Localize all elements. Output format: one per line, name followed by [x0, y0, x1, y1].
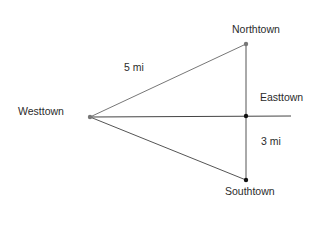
northtown-label: Northtown	[232, 24, 280, 35]
northtown-point	[244, 42, 248, 46]
southtown-label: Southtown	[225, 186, 275, 197]
distance-label-west-north: 5 mi	[124, 62, 144, 73]
easttown-point	[244, 114, 248, 118]
southtown-point	[244, 178, 248, 182]
segment-west-north	[90, 44, 246, 117]
easttown-label: Easttown	[260, 92, 303, 103]
westtown-label: Westtown	[18, 106, 64, 117]
segment-west-south	[90, 117, 246, 180]
westtown-point	[88, 115, 92, 119]
segment-west-east	[90, 116, 291, 117]
distance-label-east-south: 3 mi	[261, 136, 281, 147]
